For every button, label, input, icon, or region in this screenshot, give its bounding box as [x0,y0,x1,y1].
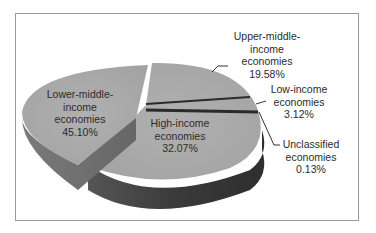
separator-low-unclassified [146,110,258,112]
label-unclassified: Unclassified economies 0.13% [272,138,350,176]
label-low-income: Low-income economies 3.12% [262,83,336,121]
label-lower-middle: Lower-middle- income economies 45.10% [40,88,120,138]
label-upper-middle: Upper-middle- income economies 19.58% [222,30,312,80]
label-high-income: High-income economies 32.07% [140,117,220,155]
